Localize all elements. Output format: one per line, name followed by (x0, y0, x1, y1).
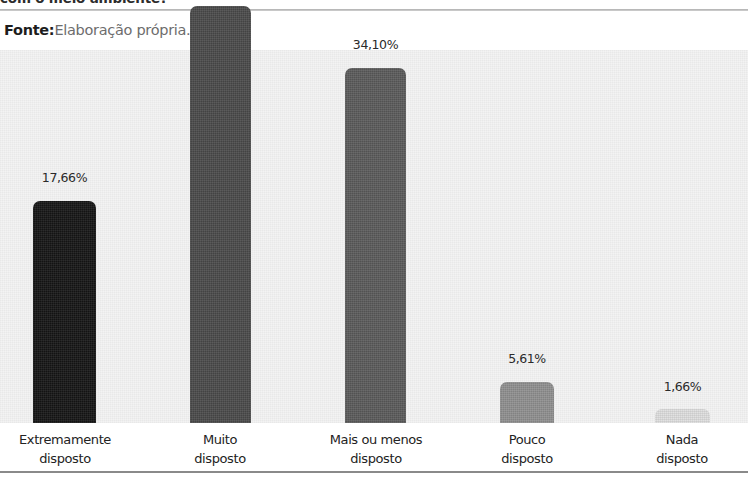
bar-pouco-disposto[interactable] (500, 382, 554, 423)
x-axis-label-0: Extremamente disposto (0, 430, 130, 468)
bar-slot-3: 5,61% (500, 50, 554, 423)
figure-container: com o meio ambiente? Fonte:Elaboração pr… (0, 0, 748, 485)
bar-mais-ou-menos-disposto[interactable] (345, 68, 406, 423)
x-axis-label-4-line1: Nada (617, 430, 747, 449)
title-divider (0, 9, 748, 11)
x-axis-label-1-line1: Muito (155, 430, 285, 449)
x-axis-label-0-line1: Extremamente (0, 430, 130, 449)
bar-value-label-4: 1,66% (664, 379, 702, 394)
figure-title-text: com o meio ambiente? (0, 0, 748, 6)
x-axis-label-3-line1: Pouco (462, 430, 592, 449)
x-axis-label-2-line1: Mais ou menos (310, 430, 442, 449)
bar-nada-disposto[interactable] (655, 409, 710, 423)
source-label: Fonte: (4, 22, 54, 38)
source-value: Elaboração própria. (54, 22, 190, 38)
bar-slot-1: 40,97% (190, 50, 251, 423)
x-axis-label-2-line2: disposto (310, 449, 442, 468)
chart-plot-area: 17,66% 40,97% 34,10% 5,61% 1,66% (0, 50, 748, 423)
source-caption: Fonte:Elaboração própria. (4, 21, 190, 39)
bar-value-label-0: 17,66% (42, 170, 87, 185)
bar-value-label-3: 5,61% (508, 351, 546, 366)
bar-muito-disposto[interactable] (190, 6, 251, 423)
bar-slot-4: 1,66% (655, 50, 710, 423)
bar-slot-0: 17,66% (33, 50, 96, 423)
x-axis-label-0-line2: disposto (0, 449, 130, 468)
bar-value-label-2: 34,10% (353, 37, 398, 52)
x-axis-label-1: Muito disposto (155, 430, 285, 468)
x-axis-label-3-line2: disposto (462, 449, 592, 468)
x-axis-label-2: Mais ou menos disposto (310, 430, 442, 468)
x-axis-label-3: Pouco disposto (462, 430, 592, 468)
bar-slot-2: 34,10% (345, 50, 406, 423)
x-axis-label-4: Nada disposto (617, 430, 747, 468)
x-axis-label-4-line2: disposto (617, 449, 747, 468)
x-axis-labels: Extremamente disposto Muito disposto Mai… (0, 430, 748, 485)
x-axis-label-1-line2: disposto (155, 449, 285, 468)
bar-extremamente-disposto[interactable] (33, 201, 96, 423)
figure-title-cropped: com o meio ambiente? (0, 0, 748, 6)
